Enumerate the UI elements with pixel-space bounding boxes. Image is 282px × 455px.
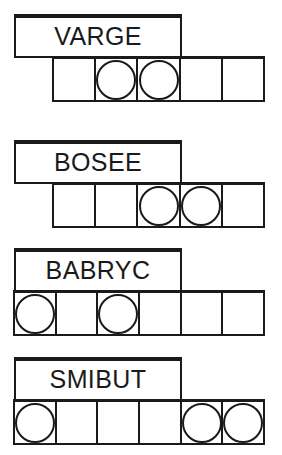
sound-box-cell[interactable]: [223, 293, 263, 334]
word-label-text: VARGE: [54, 24, 142, 49]
word-label-box[interactable]: BOSEE: [14, 140, 182, 184]
sound-box-cell[interactable]: [140, 293, 182, 334]
word-label-text: BOSEE: [54, 150, 142, 175]
sound-box-cell[interactable]: [96, 59, 138, 100]
circle-marker-icon: [96, 60, 136, 100]
sound-box-cell[interactable]: [54, 59, 96, 100]
circle-marker-icon: [182, 403, 222, 443]
circle-marker-icon: [139, 186, 179, 226]
sound-box-cell[interactable]: [223, 185, 263, 226]
word-label-text: BABRYC: [46, 258, 151, 283]
word-label-box[interactable]: BABRYC: [14, 248, 182, 292]
sound-box-cell[interactable]: [138, 185, 180, 226]
sound-box-cell[interactable]: [182, 293, 224, 334]
circle-marker-icon: [139, 60, 179, 100]
sound-box-cell[interactable]: [15, 402, 57, 443]
sound-box-cell[interactable]: [138, 59, 180, 100]
circle-marker-icon: [15, 403, 55, 443]
sound-box-cell[interactable]: [15, 293, 57, 334]
sound-box-cell[interactable]: [96, 185, 138, 226]
word-label-text: SMIBUT: [50, 367, 147, 392]
sound-box-row: [13, 399, 265, 445]
diagram-canvas: VARGEBOSEEBABRYCSMIBUT: [0, 0, 282, 455]
sound-box-row: [52, 182, 265, 228]
word-label-box[interactable]: VARGE: [14, 14, 182, 58]
sound-box-cell[interactable]: [182, 402, 224, 443]
sound-box-row: [13, 290, 265, 336]
sound-box-cell[interactable]: [181, 185, 223, 226]
circle-marker-icon: [223, 403, 263, 443]
sound-box-cell[interactable]: [223, 402, 263, 443]
sound-box-cell[interactable]: [57, 293, 99, 334]
sound-box-cell[interactable]: [181, 59, 223, 100]
circle-marker-icon: [98, 294, 138, 334]
sound-box-cell[interactable]: [223, 59, 263, 100]
sound-box-cell[interactable]: [54, 185, 96, 226]
sound-box-cell[interactable]: [98, 402, 140, 443]
sound-box-cell[interactable]: [57, 402, 99, 443]
word-label-box[interactable]: SMIBUT: [14, 357, 182, 401]
circle-marker-icon: [15, 294, 55, 334]
sound-box-cell[interactable]: [140, 402, 182, 443]
circle-marker-icon: [181, 186, 221, 226]
sound-box-cell[interactable]: [98, 293, 140, 334]
sound-box-row: [52, 56, 265, 102]
